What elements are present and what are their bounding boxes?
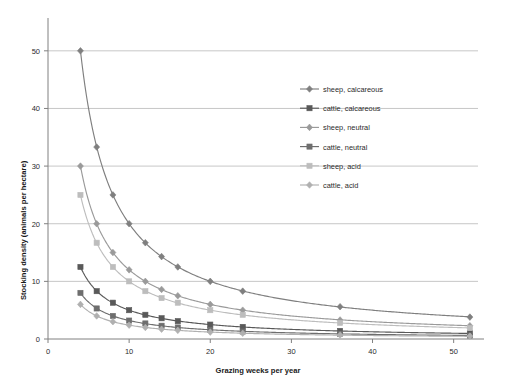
data-point <box>94 289 99 294</box>
x-tick-label-40: 40 <box>368 347 376 356</box>
series-sheep-calcareous <box>77 48 472 321</box>
legend-item-cattle-acid[interactable]: cattle, acid <box>300 181 358 190</box>
data-point <box>110 313 115 318</box>
gridlines <box>48 51 478 282</box>
data-point <box>337 303 343 310</box>
legend-item-sheep-calcareous[interactable]: sheep, calcareous <box>300 85 383 94</box>
data-point <box>94 240 99 245</box>
axis-lines <box>48 18 484 339</box>
data-point <box>467 314 473 321</box>
legend-item-label: sheep, acid <box>323 162 361 171</box>
data-point <box>94 220 100 227</box>
x-axis-ticks: 01020304050 <box>46 339 458 356</box>
y-axis-title: Stocking density (animals per hectare) <box>19 160 28 300</box>
series-cattle-acid <box>77 301 472 339</box>
data-point <box>175 292 181 299</box>
series-line <box>80 166 469 326</box>
data-point <box>159 253 165 260</box>
x-tick-label-20: 20 <box>206 347 214 356</box>
legend-marker <box>307 182 313 189</box>
data-point <box>159 295 164 300</box>
x-axis-title: Grazing weeks per year <box>216 366 301 375</box>
data-point <box>94 313 100 320</box>
data-point <box>208 322 213 327</box>
data-point <box>77 163 83 170</box>
data-point <box>110 264 115 269</box>
series-line <box>80 195 469 328</box>
data-point <box>175 264 181 271</box>
series-sheep-neutral <box>77 163 472 329</box>
y-tick-label-0: 0 <box>36 335 40 344</box>
stocking-density-line-chart: 01020304050 01020304050 Stocking density… <box>0 0 508 385</box>
data-point <box>240 288 246 295</box>
legend-item-sheep-acid[interactable]: sheep, acid <box>300 162 361 171</box>
legend-marker <box>307 86 313 93</box>
data-point <box>110 300 115 305</box>
legend-item-label: sheep, calcareous <box>323 85 383 94</box>
y-tick-label-30: 30 <box>32 162 40 171</box>
data-point <box>207 301 213 308</box>
data-point <box>127 308 132 313</box>
data-point <box>159 316 164 321</box>
legend-item-label: cattle, acid <box>323 181 358 190</box>
data-point <box>110 192 116 199</box>
data-point <box>208 308 213 313</box>
y-tick-label-40: 40 <box>32 104 40 113</box>
legend-item-label: sheep, neutral <box>323 123 370 132</box>
legend-item-cattle-neutral[interactable]: cattle, neutral <box>300 143 368 152</box>
legend-marker <box>307 163 312 168</box>
legend-item-label: cattle, calcareous <box>323 104 381 113</box>
data-point <box>78 264 83 269</box>
data-point <box>337 320 342 325</box>
data-point <box>110 318 116 325</box>
data-point <box>127 279 132 284</box>
data-series-group <box>77 48 472 340</box>
chart-figure: 01020304050 01020304050 Stocking density… <box>0 0 508 385</box>
data-point <box>467 325 472 330</box>
data-point <box>142 278 148 285</box>
chart-legend: sheep, calcareouscattle, calcareoussheep… <box>300 85 383 190</box>
legend-marker <box>307 106 312 111</box>
data-point <box>78 290 83 295</box>
x-tick-label-0: 0 <box>46 347 50 356</box>
series-cattle-calcareous <box>78 264 473 335</box>
legend-marker <box>307 144 312 149</box>
data-point <box>94 306 99 311</box>
data-point <box>143 289 148 294</box>
x-tick-label-10: 10 <box>125 347 133 356</box>
y-tick-label-50: 50 <box>32 47 40 56</box>
data-point <box>94 144 100 151</box>
series-sheep-acid <box>78 192 473 330</box>
legend-item-label: cattle, neutral <box>323 143 368 152</box>
x-tick-label-50: 50 <box>449 347 457 356</box>
data-point <box>240 312 245 317</box>
data-point <box>77 48 83 55</box>
y-tick-label-10: 10 <box>32 277 40 286</box>
legend-marker <box>307 124 313 131</box>
data-point <box>175 300 180 305</box>
legend-item-cattle-calcareous[interactable]: cattle, calcareous <box>300 104 381 113</box>
data-point <box>159 286 165 293</box>
data-point <box>143 312 148 317</box>
data-point <box>78 192 83 197</box>
series-line <box>80 304 469 336</box>
x-tick-label-30: 30 <box>287 347 295 356</box>
y-tick-label-20: 20 <box>32 220 40 229</box>
data-point <box>207 278 213 285</box>
y-axis-ticks: 01020304050 <box>32 47 48 344</box>
legend-item-sheep-neutral[interactable]: sheep, neutral <box>300 123 370 132</box>
data-point <box>175 319 180 324</box>
chart-page: 01020304050 01020304050 Stocking density… <box>0 0 508 385</box>
